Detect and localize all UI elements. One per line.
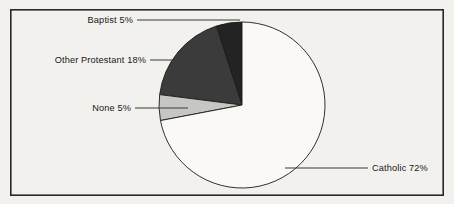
pie-slice-group bbox=[159, 22, 325, 188]
slice-label-other-protestant: Other Protestant 18% bbox=[55, 55, 146, 65]
slice-label-baptist: Baptist 5% bbox=[88, 15, 133, 25]
pie-chart-svg: Baptist 5%Other Protestant 18%None 5%Cat… bbox=[0, 0, 454, 204]
slice-label-catholic: Catholic 72% bbox=[372, 163, 428, 173]
chart-figure: Baptist 5%Other Protestant 18%None 5%Cat… bbox=[0, 0, 454, 204]
slice-label-none: None 5% bbox=[92, 103, 131, 113]
